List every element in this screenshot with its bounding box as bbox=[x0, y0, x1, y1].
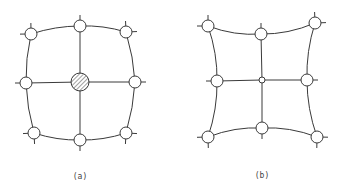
node-middle-right bbox=[129, 76, 141, 88]
boundary-edge bbox=[262, 128, 317, 137]
node-bottom-left bbox=[28, 127, 40, 139]
node-top-right bbox=[309, 17, 321, 29]
boundary-edge bbox=[34, 133, 80, 140]
center-node bbox=[259, 77, 265, 83]
node-bottom-left bbox=[202, 131, 214, 143]
node-top-middle bbox=[255, 28, 267, 40]
boundary-edge bbox=[31, 26, 80, 34]
node-middle-right bbox=[301, 74, 313, 86]
node-bottom-middle bbox=[256, 122, 268, 134]
boundary-edge bbox=[307, 23, 315, 80]
panel-b-nodes bbox=[202, 17, 323, 143]
node-middle-left bbox=[211, 75, 223, 87]
boundary-edge bbox=[80, 26, 126, 32]
panel-b: (b) bbox=[197, 12, 328, 180]
cross-edge bbox=[217, 80, 262, 81]
boundary-edge bbox=[80, 133, 126, 140]
node-bottom-right bbox=[311, 131, 323, 143]
panel-a-caption: (a) bbox=[73, 172, 87, 181]
node-bottom-middle bbox=[74, 134, 86, 146]
boundary-edge bbox=[26, 83, 34, 133]
boundary-edge bbox=[307, 80, 317, 137]
cross-edge bbox=[261, 34, 262, 80]
boundary-edge bbox=[126, 32, 135, 82]
deformation-diagram: (a) (b) bbox=[0, 0, 342, 189]
node-middle-left bbox=[20, 77, 32, 89]
center-node bbox=[71, 73, 89, 91]
boundary-edge bbox=[208, 26, 217, 81]
node-top-middle bbox=[74, 20, 86, 32]
node-top-left bbox=[25, 28, 37, 40]
node-top-right bbox=[120, 26, 132, 38]
boundary-edge bbox=[208, 26, 261, 34]
boundary-edge bbox=[126, 82, 135, 133]
boundary-edge bbox=[26, 34, 31, 83]
panel-a: (a) bbox=[15, 15, 146, 181]
node-top-left bbox=[202, 20, 214, 32]
boundary-edge bbox=[208, 81, 217, 137]
boundary-edge bbox=[208, 128, 262, 137]
boundary-edge bbox=[261, 23, 315, 34]
panel-b-caption: (b) bbox=[255, 171, 269, 180]
node-bottom-right bbox=[120, 127, 132, 139]
